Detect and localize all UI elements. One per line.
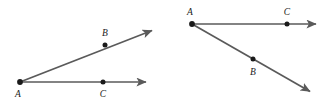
left-point-B <box>103 43 108 48</box>
right-label-A: A <box>186 7 193 17</box>
left-label-B: B <box>102 28 108 38</box>
right-point-C <box>285 22 290 27</box>
diagram-canvas: A B C A C B <box>0 0 327 102</box>
left-point-C <box>101 80 106 85</box>
right-label-C: C <box>284 7 291 17</box>
left-label-A: A <box>14 89 21 99</box>
left-ray-AB-line <box>20 31 152 83</box>
left-vertex-point-A <box>17 79 23 85</box>
right-angle-group: A C B <box>186 7 316 92</box>
right-vertex-point-A <box>189 21 195 27</box>
left-label-C: C <box>100 89 107 99</box>
geometry-figure-svg: A B C A C B <box>0 0 327 102</box>
right-point-B <box>251 57 256 62</box>
left-angle-group: A B C <box>14 28 152 99</box>
right-label-B: B <box>250 67 256 77</box>
